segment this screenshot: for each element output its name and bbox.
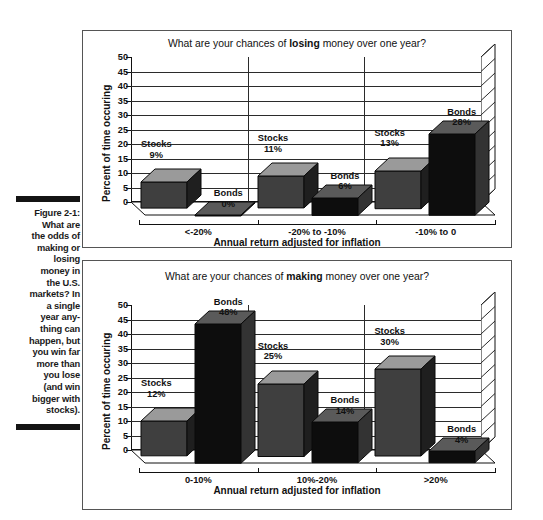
x-category-label: 10%-20%	[297, 475, 337, 485]
bar-callout-value: 48%	[219, 307, 238, 317]
chart-title-losing: What are your chances of losing money ov…	[83, 38, 511, 49]
bar-callout-value: 14%	[336, 406, 355, 416]
bar-callout-value: 12%	[147, 389, 166, 399]
y-tick-mark	[126, 159, 131, 160]
x-axis-line	[139, 472, 495, 473]
caption-line-4: money in	[40, 266, 80, 276]
y-tick-mark	[126, 363, 131, 364]
bar-callout: Bonds6%	[331, 171, 360, 192]
x-axis-label-making: Annual return adjusted for inflation	[83, 485, 511, 496]
caption-rule-bottom	[16, 424, 80, 430]
bar-callout: Stocks9%	[141, 139, 172, 160]
chart-title-prefix: What are your chances of	[165, 271, 286, 282]
bar-stocks-2	[375, 158, 437, 211]
y-tick-mark	[126, 72, 131, 73]
bar-callout-series: Bonds	[214, 297, 243, 307]
y-tick-mark	[126, 349, 131, 350]
x-tick-mark	[495, 468, 496, 473]
gridline	[131, 115, 481, 116]
y-tick-mark	[126, 173, 131, 174]
bar-callout-value: 30%	[380, 337, 399, 347]
y-tick-mark	[126, 378, 131, 379]
y-tick-mark	[126, 334, 131, 335]
bar-stocks-1	[258, 163, 320, 210]
gridline	[131, 72, 481, 73]
y-tick-mark	[126, 320, 131, 321]
y-tick-mark	[126, 188, 131, 189]
gridline	[131, 334, 481, 335]
caption-rule-top	[16, 196, 80, 202]
caption-line-8: year any-	[41, 312, 80, 322]
bar-bonds-0	[195, 311, 257, 465]
bar-callout: Bonds0%	[214, 188, 243, 209]
y-tick-mark	[126, 101, 131, 102]
caption-line-5: the U.S.	[47, 278, 80, 288]
bar-bonds-1	[312, 409, 374, 465]
y-tick-mark	[126, 144, 131, 145]
x-tick-mark	[258, 220, 259, 225]
bar-callout-value: 25%	[264, 351, 283, 361]
category-divider	[248, 57, 249, 202]
bar-callout-value: 9%	[150, 150, 163, 160]
x-tick-mark	[139, 468, 140, 473]
caption-line-16: stocks).	[46, 405, 80, 415]
figure-label: Figure 2-1:	[8, 208, 80, 220]
gridline	[131, 349, 481, 350]
x-tick-mark	[139, 220, 140, 225]
bar-callout-value: 4%	[455, 435, 468, 445]
caption-line-11: you win far	[33, 347, 80, 357]
bar-callout-series: Stocks	[141, 139, 172, 149]
y-tick-mark	[126, 86, 131, 87]
bar-callout-series: Stocks	[374, 128, 405, 138]
bar-callout-series: Stocks	[258, 341, 289, 351]
plot-area-making: 50454035302520151050	[131, 305, 481, 450]
bar-callout-value: 0%	[222, 199, 235, 209]
bar-callout: Stocks12%	[141, 378, 172, 399]
x-axis-line	[139, 224, 495, 225]
y-tick-mark	[126, 436, 131, 437]
caption-line-1: the odds of	[32, 231, 80, 241]
y-axis-label-making: Percent of time occuring	[101, 333, 112, 450]
x-category-label: -10% to 0	[415, 227, 456, 237]
figure-caption-block: Figure 2-1: What are the odds of making …	[8, 196, 80, 430]
plot-area-losing: 50454035302520151050	[131, 57, 481, 202]
bar-callout: Bonds48%	[214, 297, 243, 318]
bar-callout-value: 28%	[452, 117, 471, 127]
gridline	[131, 101, 481, 102]
y-axis-label-losing: Percent of time occuring	[101, 85, 112, 202]
caption-line-3: losing	[54, 254, 80, 264]
chart-title-emphasis: making	[286, 271, 322, 282]
y-tick-mark	[126, 115, 131, 116]
y-tick-mark	[126, 305, 131, 306]
bar-callout-series: Stocks	[258, 133, 289, 143]
caption-line-9: thing can	[40, 324, 80, 334]
x-tick-mark	[495, 220, 496, 225]
x-axis-label-losing: Annual return adjusted for inflation	[83, 237, 511, 248]
bar-callout-series: Bonds	[331, 171, 360, 181]
y-tick-mark	[126, 421, 131, 422]
bar-callout-value: 13%	[380, 138, 399, 148]
caption-line-6: markets? In	[29, 289, 80, 299]
figure-page: Figure 2-1: What are the odds of making …	[0, 0, 543, 520]
caption-line-7: a single	[47, 301, 80, 311]
bar-callout-series: Stocks	[141, 378, 172, 388]
caption-line-12: more than	[36, 359, 80, 369]
chart-losing-money: What are your chances of losing money ov…	[82, 30, 512, 248]
y-tick-mark	[126, 130, 131, 131]
x-tick-mark	[376, 468, 377, 473]
bar-stocks-2	[375, 356, 437, 458]
x-category-label: -20% to -10%	[288, 227, 345, 237]
caption-line-14: (and win	[43, 382, 80, 392]
bar-callout: Bonds28%	[447, 107, 476, 128]
chart-title-suffix: money over one year?	[323, 271, 429, 282]
chart-title-prefix: What are your chances of	[168, 38, 289, 49]
bar-callout: Stocks13%	[374, 128, 405, 149]
chart-title-suffix: money over one year?	[320, 38, 426, 49]
bar-stocks-0	[141, 169, 203, 210]
caption-line-0: What are	[42, 220, 80, 230]
x-category-label: <-20%	[185, 227, 212, 237]
bar-callout-value: 6%	[338, 181, 351, 191]
bar-callout-series: Bonds	[214, 188, 243, 198]
caption-line-10: happen, but	[29, 336, 80, 346]
caption-line-2: making or	[37, 243, 80, 253]
